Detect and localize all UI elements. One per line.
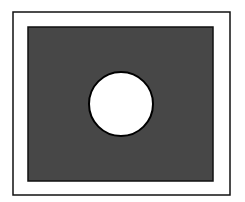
center-circle bbox=[89, 72, 153, 136]
diagram-canvas bbox=[0, 0, 245, 202]
